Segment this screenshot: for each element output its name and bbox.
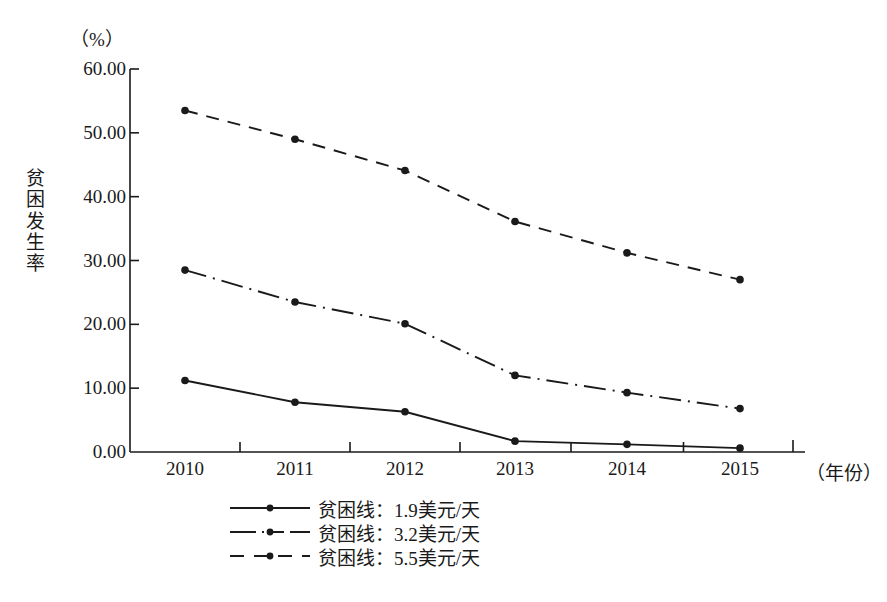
data-point-marker	[401, 167, 409, 175]
chart-legend: 贫困线：1.9美元/天 贫困线：3.2美元/天 贫困线：5.5美元/天	[228, 496, 648, 568]
legend-key-dash-dot-icon	[228, 524, 312, 540]
legend-label: 贫困线：5.5美元/天	[318, 543, 480, 570]
series-line	[185, 381, 740, 449]
data-point-marker	[401, 408, 409, 416]
data-point-marker	[181, 107, 189, 115]
data-point-marker	[511, 372, 519, 380]
data-point-marker	[291, 298, 299, 306]
data-point-marker	[181, 266, 189, 274]
data-point-marker	[736, 276, 744, 284]
data-point-marker	[181, 377, 189, 385]
legend-item[interactable]: 贫困线：3.2美元/天	[228, 520, 648, 544]
data-point-marker	[401, 320, 409, 328]
chart-figure: （%） 贫 困 发 生 率 60.0050.0040.0030.0020.001…	[0, 0, 887, 602]
data-point-marker	[291, 398, 299, 406]
legend-key-dashed-icon	[228, 548, 312, 564]
data-point-marker	[291, 135, 299, 143]
legend-label: 贫困线：1.9美元/天	[318, 495, 480, 522]
legend-item[interactable]: 贫困线：5.5美元/天	[228, 544, 648, 568]
data-point-marker	[623, 249, 631, 257]
data-point-marker	[623, 389, 631, 397]
legend-label: 贫困线：3.2美元/天	[318, 519, 480, 546]
legend-key-solid-icon	[228, 500, 312, 516]
data-point-marker	[736, 405, 744, 413]
data-point-marker	[623, 441, 631, 449]
data-point-marker	[736, 444, 744, 452]
series-line	[185, 110, 740, 279]
series-line	[185, 270, 740, 409]
legend-item[interactable]: 贫困线：1.9美元/天	[228, 496, 648, 520]
data-point-marker	[511, 218, 519, 226]
data-point-marker	[511, 437, 519, 445]
